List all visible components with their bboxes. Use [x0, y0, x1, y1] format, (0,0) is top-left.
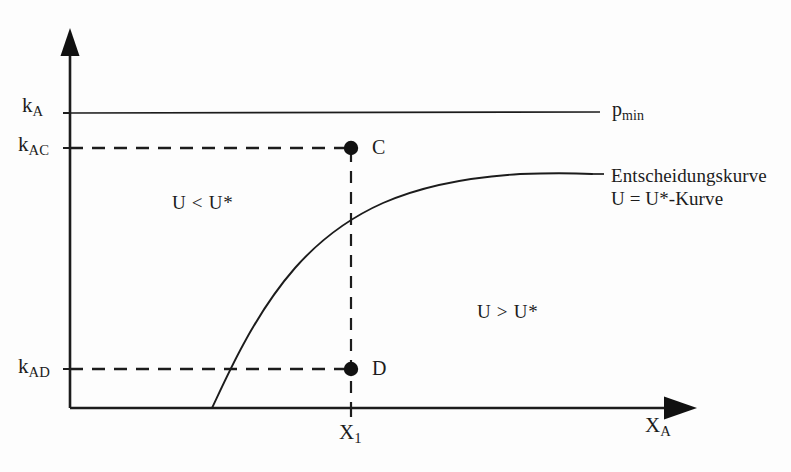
- xtick-label-x1: X1: [339, 421, 362, 447]
- region-label-u-greater: U > U*: [477, 301, 538, 322]
- x-axis-label: XA: [645, 414, 671, 440]
- pmin-label: pmin: [612, 98, 644, 124]
- decision-curve-label: Entscheidungskurve U = U*-Kurve: [611, 165, 767, 210]
- region-label-u-less: U < U*: [172, 192, 233, 213]
- decision-curve-path: [212, 173, 592, 408]
- pmin-line: [70, 112, 600, 113]
- point-d-marker: [344, 362, 358, 376]
- y-axis-arrowhead: [61, 28, 80, 56]
- ytick-label-kac: kAC: [18, 133, 49, 159]
- ytick-label-ka: kA: [22, 94, 43, 120]
- ytick-label-kad: kAD: [18, 355, 50, 381]
- point-c-marker: [344, 141, 358, 155]
- curve-label-line-2: U = U*-Kurve: [611, 188, 767, 209]
- point-d-label: D: [372, 357, 387, 379]
- curve-label-line-1: Entscheidungskurve: [611, 165, 767, 186]
- figure-canvas: [0, 0, 791, 472]
- point-c-label: C: [372, 136, 385, 158]
- decision-curve-figure: kA kAC kAD X1 XA pmin Entscheidungskurve…: [0, 0, 791, 472]
